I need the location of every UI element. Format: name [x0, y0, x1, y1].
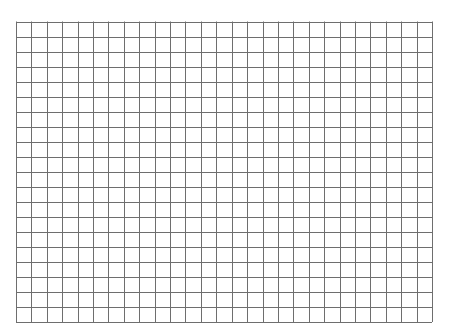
- grid-sheet: [0, 0, 451, 336]
- paper-background: [0, 0, 451, 336]
